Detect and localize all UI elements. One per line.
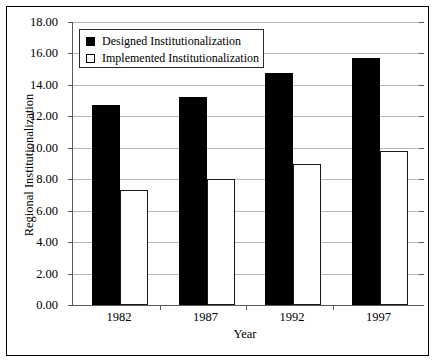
x-tick-label: 1987 bbox=[170, 309, 242, 325]
y-tick-label: 8.00 bbox=[12, 173, 58, 185]
bar-1997-designed bbox=[352, 58, 380, 305]
y-tick-label: 4.00 bbox=[12, 236, 58, 248]
chart-legend: Designed InstitutionalizationImplemented… bbox=[79, 29, 264, 68]
legend-item: Implemented Institutionalization bbox=[86, 50, 257, 66]
x-tick-label: 1982 bbox=[83, 309, 155, 325]
y-tick-label: 2.00 bbox=[12, 268, 58, 280]
bar-1982-implemented bbox=[120, 190, 148, 305]
y-tick-mark-right bbox=[419, 179, 424, 180]
y-tick-label: 12.00 bbox=[12, 110, 58, 122]
y-tick-label: 14.00 bbox=[12, 79, 58, 91]
legend-item: Designed Institutionalization bbox=[86, 33, 257, 49]
y-tick-mark-right bbox=[419, 148, 424, 149]
y-tick-mark-right bbox=[419, 85, 424, 86]
legend-label: Implemented Institutionalization bbox=[102, 52, 259, 65]
y-tick-mark-right bbox=[419, 53, 424, 54]
y-tick-mark-right bbox=[419, 116, 424, 117]
y-tick-mark-right bbox=[419, 242, 424, 243]
y-tick-label: 18.00 bbox=[12, 16, 58, 28]
y-tick-mark bbox=[68, 305, 73, 306]
legend-label: Designed Institutionalization bbox=[102, 35, 241, 48]
x-axis-tick-labels: 1982198719921997 bbox=[72, 309, 418, 327]
x-tick-label: 1997 bbox=[343, 309, 415, 325]
bar-1997-implemented bbox=[380, 151, 408, 305]
bar-1987-implemented bbox=[207, 179, 235, 305]
y-tick-mark-right bbox=[419, 274, 424, 275]
bar-1992-implemented bbox=[293, 164, 321, 305]
y-tick-mark-right bbox=[419, 22, 424, 23]
y-tick-label: 0.00 bbox=[12, 299, 58, 311]
y-tick-label: 10.00 bbox=[12, 142, 58, 154]
x-axis-title: Year bbox=[72, 327, 418, 342]
bar-group bbox=[333, 22, 420, 305]
y-tick-mark-right bbox=[419, 305, 424, 306]
bar-1992-designed bbox=[265, 73, 293, 305]
y-tick-label: 6.00 bbox=[12, 205, 58, 217]
y-tick-label: 16.00 bbox=[12, 47, 58, 59]
y-axis-tick-labels: 18.0016.0014.0012.0010.008.006.004.002.0… bbox=[12, 0, 58, 362]
y-tick-mark-right bbox=[419, 211, 424, 212]
legend-swatch-designed-icon bbox=[86, 37, 95, 46]
bar-1987-designed bbox=[179, 97, 207, 305]
legend-swatch-implemented-icon bbox=[86, 54, 95, 63]
chart-figure: Regional Institutionalization 18.0016.00… bbox=[0, 0, 435, 362]
x-tick-label: 1992 bbox=[256, 309, 328, 325]
bar-1982-designed bbox=[92, 105, 120, 305]
